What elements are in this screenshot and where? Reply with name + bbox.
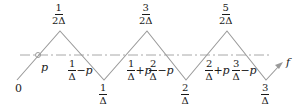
crossing-2-num: 1 — [127, 59, 135, 71]
origin-label: 0 — [15, 83, 22, 94]
crossing-5-suffix: −p — [240, 64, 256, 77]
crossing-4-num: 2 — [205, 59, 213, 71]
trough-label-2: 2 Δ — [181, 83, 189, 106]
peak-3-num: 5 — [222, 3, 230, 15]
trough-label-1: 1 Δ — [99, 83, 107, 106]
crossing-4-den: Δ — [206, 71, 213, 82]
crossing-1-den: Δ — [69, 71, 76, 82]
crossing-label-2: 1Δ +p — [127, 59, 152, 82]
crossing-label-4: 2Δ +p — [205, 59, 230, 82]
trough-1-num: 1 — [99, 83, 107, 95]
crossing-2-den: Δ — [128, 71, 135, 82]
trough-1-den: Δ — [100, 95, 107, 106]
crossing-3-den: Δ — [150, 71, 157, 82]
arrow-head-icon — [275, 62, 283, 69]
crossing-4-suffix: +p — [213, 64, 229, 77]
peak-1-num: 1 — [55, 3, 63, 15]
peak-label-2: 3 2Δ — [139, 3, 153, 26]
crossing-label-3: 2Δ −p — [149, 59, 174, 82]
crossing-3-num: 2 — [149, 59, 157, 71]
peak-label-3: 5 2Δ — [219, 3, 233, 26]
crossing-5-den: Δ — [233, 71, 240, 82]
curve-label-f: f — [286, 57, 290, 68]
trough-3-den: Δ — [262, 95, 269, 106]
level-label-p: p — [41, 62, 48, 73]
peak-2-den: 2Δ — [139, 15, 153, 26]
peak-1-den: 2Δ — [52, 15, 66, 26]
crossing-5-num: 3 — [232, 59, 240, 71]
crossing-1-num: 1 — [68, 59, 76, 71]
crossing-1-suffix: −p — [76, 64, 92, 77]
crossing-label-5: 3Δ −p — [232, 59, 257, 82]
crossing-3-suffix: −p — [157, 64, 173, 77]
crossing-label-1: 1Δ −p — [68, 59, 93, 82]
trough-label-3: 3 Δ — [261, 83, 269, 106]
trough-2-num: 2 — [181, 83, 189, 95]
trough-3-num: 3 — [261, 83, 269, 95]
trough-2-den: Δ — [182, 95, 189, 106]
peak-2-num: 3 — [142, 3, 150, 15]
peak-label-1: 1 2Δ — [52, 3, 66, 26]
peak-3-den: 2Δ — [219, 15, 233, 26]
